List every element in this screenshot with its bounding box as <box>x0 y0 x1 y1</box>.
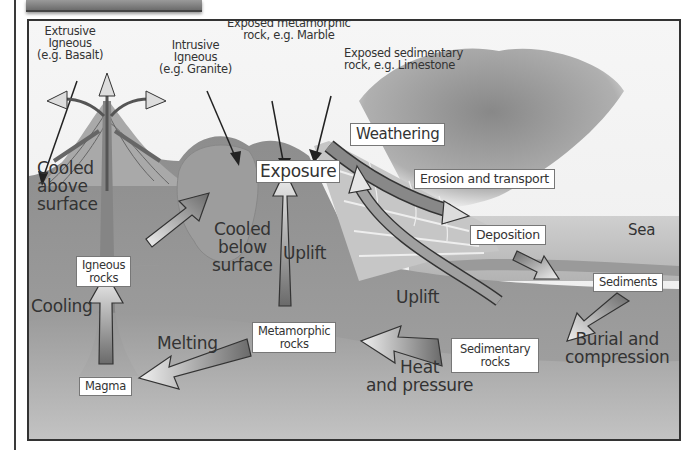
box-sedimentary-rocks: Sedimentary rocks <box>451 338 539 373</box>
label-cooled-below-surface: Cooled below surface <box>212 221 273 275</box>
box-exposure: Exposure <box>256 160 340 183</box>
box-metamorphic-rocks: Metamorphic rocks <box>252 322 336 353</box>
page-margin-rule <box>14 0 16 450</box>
label-burial-and-compression: Burial and compression <box>565 331 670 367</box>
box-deposition: Deposition <box>470 225 546 245</box>
label-uplift-2: Uplift <box>396 289 439 307</box>
label-exposed-metamorphic: Exposed metamorphic rock, e.g. Marble <box>227 19 351 41</box>
box-sediments: Sediments <box>593 273 663 292</box>
label-cooling: Cooling <box>31 298 93 316</box>
label-sea: Sea <box>628 223 655 239</box>
box-igneous-rocks: Igneous rocks <box>76 256 131 287</box>
box-magma: Magma <box>79 377 132 396</box>
label-exposed-sedimentary: Exposed sedimentary rock, e.g. Limestone <box>344 47 463 71</box>
label-melting: Melting <box>157 335 218 353</box>
box-weathering: Weathering <box>350 123 445 146</box>
box-erosion-and-transport: Erosion and transport <box>414 169 555 189</box>
label-intrusive-igneous: Intrusive Igneous (e.g. Granite) <box>159 39 232 75</box>
rock-cycle-diagram: Extrusive Igneous (e.g. Basalt) Intrusiv… <box>27 19 681 441</box>
label-cooled-above-surface: Cooled above surface <box>37 160 98 214</box>
label-uplift-1: Uplift <box>283 245 326 263</box>
label-extrusive-igneous: Extrusive Igneous (e.g. Basalt) <box>37 25 103 61</box>
header-bar <box>26 0 202 12</box>
